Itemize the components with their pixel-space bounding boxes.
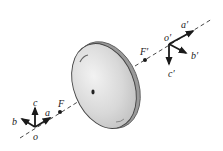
focal-point-f-prime <box>143 58 147 62</box>
axis-a-arrow <box>35 118 50 127</box>
focal-point-f-label: F <box>57 98 65 109</box>
axis-b-prime-label: b′ <box>191 50 199 61</box>
axis-c-prime-label: c′ <box>168 68 175 79</box>
axis-b-label: b <box>12 116 17 127</box>
axis-b-arrow <box>22 119 35 127</box>
axis-a-prime-label: a′ <box>181 19 189 30</box>
focal-point-f <box>58 110 62 114</box>
focal-point-f-prime-label: F′ <box>139 46 149 57</box>
origin-o-label: o <box>33 131 38 142</box>
lens-diagram: c b a o F F′ o′ a′ b′ c′ <box>0 0 223 151</box>
axis-a-label: a <box>45 107 50 118</box>
axis-b-prime-arrow <box>169 44 186 53</box>
origin-o-prime-label: o′ <box>164 32 172 43</box>
lens <box>60 32 153 139</box>
lens-center-hole <box>91 90 94 95</box>
axis-c-label: c <box>33 97 38 108</box>
image-frame: F′ o′ a′ b′ c′ <box>139 19 199 79</box>
axis-a-prime-arrow <box>169 31 193 44</box>
object-frame: c b a o F <box>12 97 65 142</box>
